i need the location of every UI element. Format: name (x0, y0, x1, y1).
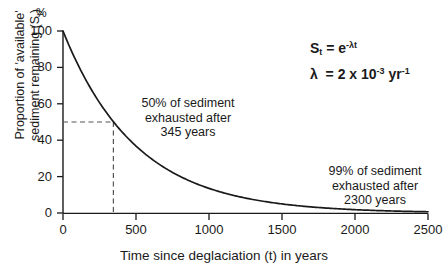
equation-lambda-base: λ = 2 x 10 (310, 66, 377, 82)
annotation-99-line2: exhausted after (316, 179, 434, 194)
y-axis-label-line1: Proportion of 'available' (13, 0, 28, 175)
decay-curve-draft (63, 31, 113, 122)
y-axis-label-close: ) (28, 9, 42, 13)
y-axis-label-line2: sediment remaining (St) (28, 0, 48, 175)
annotation-99-percent: 99% of sediment exhausted after 2300 yea… (316, 164, 434, 208)
equation-st-base: S (310, 40, 319, 56)
x-tick-marks (63, 213, 428, 220)
y-tick-marks (57, 31, 63, 213)
equation-st-eq: = e (322, 40, 346, 56)
annotation-99-line1: 99% of sediment (316, 164, 434, 179)
annotation-50-line3: 345 years (128, 125, 248, 140)
chart-figure: % 100 80 60 40 20 0 0 500 1000 1500 2000… (0, 0, 448, 272)
x-tick-label-1500: 1500 (252, 222, 312, 237)
equation-lambda-unit: yr (385, 66, 402, 82)
y-axis-label-subscript: t (35, 13, 45, 16)
annotation-50-percent: 50% of sediment exhausted after 345 year… (128, 96, 248, 140)
y-axis-label-line2-text: sediment remaining (S (28, 16, 42, 141)
annotation-50-line1: 50% of sediment (128, 96, 248, 111)
equation-line-1: St = e-λt (310, 36, 410, 62)
equation-line-2: λ = 2 x 10-3 yr-1 (310, 62, 410, 84)
y-tick-label-0: 0 (18, 205, 52, 220)
equation-st-exponent: -λt (346, 40, 357, 50)
x-tick-label-2500: 2500 (398, 222, 448, 237)
x-tick-label-500: 500 (106, 222, 166, 237)
annotation-50-line2: exhausted after (128, 111, 248, 126)
x-axis-label: Time since deglaciation (t) in years (0, 248, 448, 264)
y-axis-label: Proportion of 'available' sediment remai… (13, 0, 47, 175)
x-tick-label-2000: 2000 (325, 222, 385, 237)
annotation-99-line3: 2300 years (316, 193, 434, 208)
equation-block: St = e-λt λ = 2 x 10-3 yr-1 (310, 36, 410, 84)
equation-lambda-exponent: -3 (377, 66, 385, 76)
x-tick-label-0: 0 (33, 222, 93, 237)
x-tick-label-1000: 1000 (179, 222, 239, 237)
equation-lambda-unit-exponent: -1 (402, 66, 410, 76)
